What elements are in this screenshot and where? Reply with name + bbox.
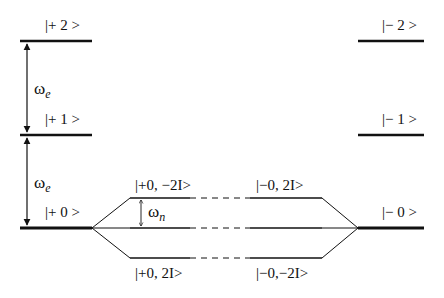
fan-right-upper (322, 198, 358, 228)
label-minus-0: |− 0 > (382, 205, 417, 220)
fan-left-lower (92, 228, 130, 258)
label-plus-0: |+ 0 > (45, 205, 80, 220)
label-minus0-minus2I: |−0,−2I> (256, 266, 308, 281)
omega-e-label-upper: ωe (34, 80, 51, 100)
omega-n-label: ωn (148, 203, 165, 223)
label-minus-2: |− 2 > (382, 18, 417, 33)
fan-right-lower (322, 228, 358, 258)
label-plus0-plus2I: |+0, 2I> (135, 266, 182, 281)
label-plus-2: |+ 2 > (45, 18, 80, 33)
energy-level-diagram (0, 0, 444, 298)
fan-left-upper (92, 198, 130, 228)
label-minus-1: |− 1 > (382, 112, 417, 127)
label-plus0-minus2I: |+0, −2I> (135, 178, 191, 193)
omega-e-label-lower: ωe (34, 174, 51, 194)
label-minus0-plus2I: |−0, 2I> (256, 178, 303, 193)
label-plus-1: |+ 1 > (45, 112, 80, 127)
